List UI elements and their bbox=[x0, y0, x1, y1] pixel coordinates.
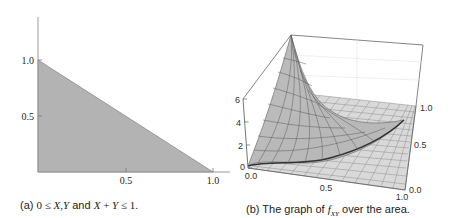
xtick-label-05: 0.5 bbox=[120, 175, 133, 186]
caption-a-prefix: (a) bbox=[20, 199, 33, 211]
xtick-05: 0.5 bbox=[320, 183, 333, 193]
caption-b: (b) The graph of fXY over the area. bbox=[246, 203, 410, 218]
ytick-05: 0.5 bbox=[414, 140, 427, 150]
ztick-4: 4 bbox=[236, 118, 241, 128]
panel-b-surface-plot: 6 4 2 0 0.0 0.5 1.0 0.0 0.5 1.0 bbox=[235, 35, 433, 202]
ztick-6: 6 bbox=[235, 95, 240, 105]
box-back-edges bbox=[243, 35, 423, 106]
caption-a-math2: ≤ 1. bbox=[118, 199, 138, 211]
ytick-10: 1.0 bbox=[420, 103, 433, 113]
ytick-label-1: 1.0 bbox=[22, 55, 35, 66]
caption-b-sub: XY bbox=[331, 210, 339, 218]
caption-a: (a) 0 ≤ X,Y and X + Y ≤ 1. bbox=[20, 199, 138, 211]
caption-a-plus: + bbox=[100, 199, 112, 211]
figure-canvas: 1.0 0.5 0.5 1.0 bbox=[0, 0, 459, 218]
xtick-10: 1.0 bbox=[396, 192, 409, 202]
caption-a-and: and bbox=[69, 199, 93, 211]
caption-a-math1: 0 ≤ bbox=[37, 199, 54, 211]
xtick-00: 0.0 bbox=[245, 171, 258, 181]
panel-a-region-plot: 1.0 0.5 0.5 1.0 bbox=[22, 17, 231, 186]
ztick-2: 2 bbox=[238, 141, 243, 151]
caption-b-prefix: (b) The graph of bbox=[246, 203, 328, 215]
caption-b-suffix: over the area. bbox=[339, 203, 410, 215]
ytick-00: 0.0 bbox=[409, 185, 422, 195]
feasible-region-triangle bbox=[38, 60, 213, 172]
xtick-label-1: 1.0 bbox=[207, 175, 220, 186]
ytick-label-05: 0.5 bbox=[22, 111, 35, 122]
